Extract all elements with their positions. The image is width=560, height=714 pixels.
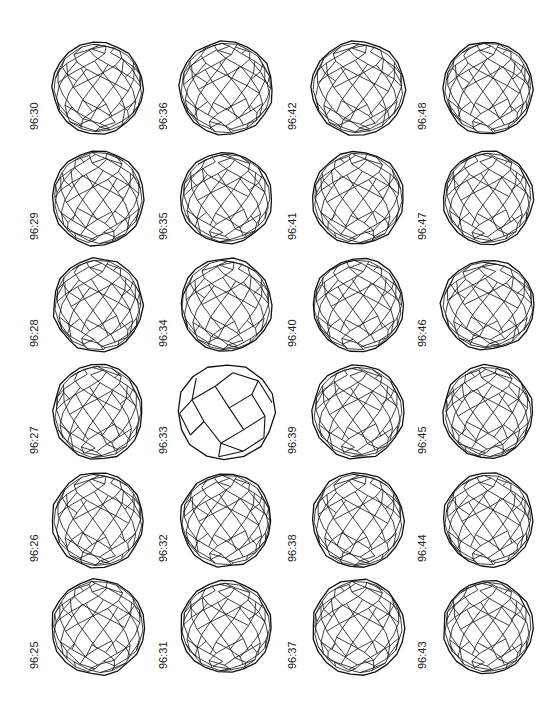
- isomer-label: 96:32: [157, 534, 169, 562]
- isomer-label: 96:34: [157, 319, 169, 347]
- fullerene-cage-wireframe: [313, 473, 405, 568]
- isomer-label: 96:26: [28, 534, 40, 562]
- isomer-label: 96:43: [416, 641, 428, 669]
- fullerene-cage-wireframe: [53, 364, 142, 459]
- isomer-label: 96:42: [286, 102, 298, 130]
- fullerene-cage-wireframe: [312, 365, 404, 459]
- isomer-label: 96:44: [416, 534, 428, 562]
- fullerene-cage-wireframe: [52, 473, 143, 568]
- fullerene-cage-wireframe: [181, 258, 272, 351]
- fullerene-cage-wireframe: [181, 580, 271, 672]
- isomer-label: 96:37: [286, 641, 298, 669]
- isomer-label: 96:36: [157, 102, 169, 130]
- fullerene-cage-wireframe: [54, 258, 144, 352]
- fullerene-cage-wireframe: [181, 474, 271, 567]
- isomer-label: 96:27: [28, 426, 40, 454]
- isomer-label: 96:46: [416, 319, 428, 347]
- isomer-label: 96:48: [416, 102, 428, 130]
- isomer-label: 96:40: [286, 319, 298, 347]
- fullerene-cage-wireframe: [443, 364, 533, 458]
- fullerene-cage-wireframe: [178, 365, 275, 459]
- isomer-label: 96:38: [286, 534, 298, 562]
- cages-canvas: [0, 0, 560, 714]
- isomer-label: 96:31: [157, 641, 169, 669]
- fullerene-cage-wireframe: [444, 151, 534, 245]
- fullerene-cage-wireframe: [179, 41, 272, 135]
- isomer-label: 96:35: [157, 212, 169, 240]
- fullerene-cage-wireframe: [313, 151, 403, 243]
- isomer-label: 96:41: [286, 212, 298, 240]
- fullerene-cage-wireframe: [443, 43, 533, 134]
- isomer-label: 96:47: [416, 212, 428, 240]
- isomer-label: 96:25: [28, 641, 40, 669]
- isomer-label: 96:33: [157, 426, 169, 454]
- fullerene-cage-wireframe: [313, 258, 403, 351]
- fullerene-cage-wireframe: [181, 153, 272, 244]
- fullerene-cage-wireframe: [52, 579, 144, 676]
- fullerene-cage-wireframe: [311, 41, 406, 135]
- fullerene-cage-wireframe: [440, 261, 534, 350]
- fullerene-cage-wireframe: [444, 473, 533, 567]
- isomer-label: 96:29: [28, 212, 40, 240]
- fullerene-cage-wireframe: [313, 579, 405, 675]
- fullerene-cage-wireframe: [444, 581, 533, 674]
- isomer-label: 96:45: [416, 426, 428, 454]
- isomer-label: 96:39: [286, 426, 298, 454]
- fullerene-cage-wireframe: [53, 151, 144, 246]
- isomer-label: 96:30: [28, 102, 40, 130]
- fullerene-cage-wireframe: [52, 42, 144, 134]
- isomer-label: 96:28: [28, 319, 40, 347]
